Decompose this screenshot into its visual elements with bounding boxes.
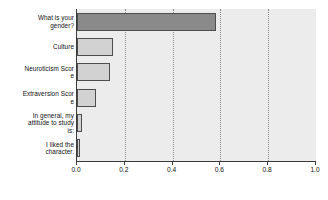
bar-row — [77, 38, 316, 56]
x-axis-tick-mark — [124, 161, 125, 165]
bar[interactable] — [77, 63, 110, 81]
gridline — [173, 9, 174, 161]
y-axis-label: Extraversion Score — [8, 90, 74, 105]
bar-row — [77, 114, 316, 132]
bar-row — [77, 89, 316, 107]
bar[interactable] — [77, 89, 96, 107]
y-axis-label-line: Culture — [8, 43, 74, 51]
x-axis-tick-label: 0.8 — [252, 166, 282, 173]
bar-row — [77, 13, 316, 31]
y-axis-label-line: gender? — [8, 22, 74, 30]
y-axis-label-line: is: — [8, 127, 74, 135]
bar[interactable] — [77, 139, 80, 157]
y-axis-label-line: Neuroticism Scor — [8, 65, 74, 73]
y-axis-label-line: character. — [8, 148, 74, 156]
y-axis-label-line: I liked the — [8, 141, 74, 149]
y-axis-label: Neuroticism Score — [8, 65, 74, 80]
x-axis-tick-label: 1.0 — [300, 166, 328, 173]
bar[interactable] — [77, 38, 113, 56]
x-axis-tick-label: 0.0 — [61, 166, 91, 173]
y-axis-label-line: e — [8, 98, 74, 106]
gridline — [220, 9, 221, 161]
y-axis-label: Culture — [8, 43, 74, 51]
x-axis-tick-mark — [172, 161, 173, 165]
x-axis-tick-mark — [267, 161, 268, 165]
y-axis-label: I liked thecharacter. — [8, 141, 74, 156]
x-axis-tick-mark — [315, 161, 316, 165]
bar-chart: What is yourgender?CultureNeuroticism Sc… — [0, 0, 328, 200]
y-axis-label-line: attitude to study — [8, 119, 74, 127]
plot-area — [76, 9, 316, 162]
y-axis-label: What is yourgender? — [8, 14, 74, 29]
x-axis-tick-label: 0.4 — [157, 166, 187, 173]
bar[interactable] — [77, 13, 216, 31]
y-axis-label: In general, myattitude to studyis: — [8, 112, 74, 135]
y-axis-label-line: In general, my — [8, 112, 74, 120]
bar-row — [77, 139, 316, 157]
y-axis-label-line: Extraversion Scor — [8, 90, 74, 98]
y-axis-label-line: What is your — [8, 14, 74, 22]
x-axis-tick-mark — [219, 161, 220, 165]
x-axis-tick-mark — [76, 161, 77, 165]
x-axis-tick-label: 0.6 — [204, 166, 234, 173]
bar[interactable] — [77, 114, 82, 132]
y-axis-label-line: e — [8, 72, 74, 80]
bar-row — [77, 63, 316, 81]
x-axis-tick-label: 0.2 — [109, 166, 139, 173]
plot-inner — [77, 9, 316, 161]
gridline — [125, 9, 126, 161]
gridline — [268, 9, 269, 161]
